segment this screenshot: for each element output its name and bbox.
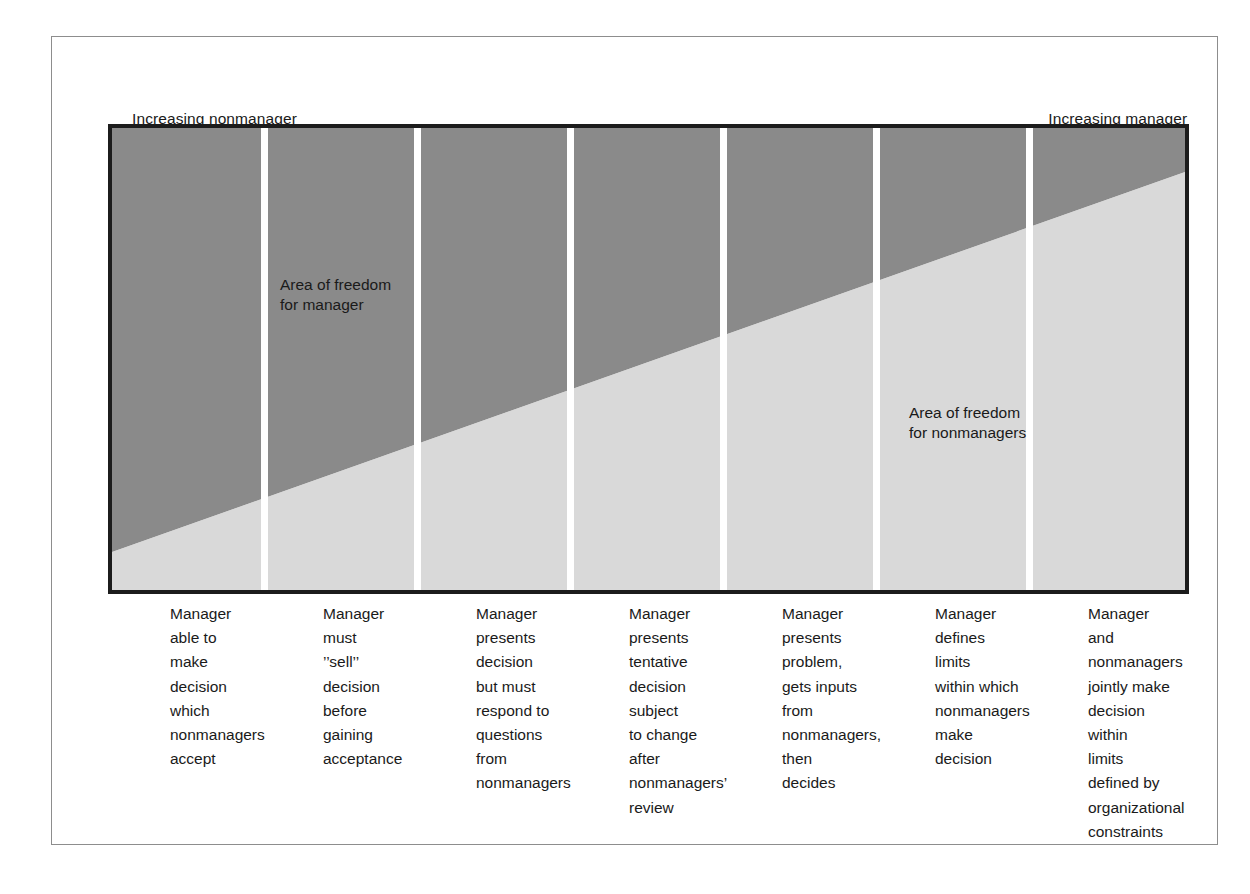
column-divider-4 (720, 128, 727, 590)
descriptor-column-6: Manager defines limits within which nonm… (935, 602, 1085, 771)
column-divider-3 (567, 128, 574, 590)
descriptor-column-3: Manager presents decision but must respo… (476, 602, 624, 796)
descriptor-column-5: Manager presents problem, gets inputs fr… (782, 602, 932, 796)
descriptor-column-2: Manager must ’’sell’’ decision before ga… (323, 602, 468, 771)
descriptor-column-4: Manager presents tentative decision subj… (629, 602, 777, 820)
area-label-nonmanager-freedom: Area of freedom for nonmanagers (909, 403, 1026, 443)
continuum-graphic: Area of freedom for manager Area of free… (108, 124, 1189, 594)
column-divider-1 (261, 128, 268, 590)
column-divider-5 (873, 128, 880, 590)
area-wedges (112, 128, 1185, 590)
area-label-manager-freedom: Area of freedom for manager (280, 275, 391, 315)
figure-frame: Increasing nonmanager power and influenc… (51, 36, 1218, 845)
descriptor-column-7: Manager and nonmanagers jointly make dec… (1088, 602, 1248, 844)
column-divider-6 (1026, 128, 1033, 590)
column-divider-2 (414, 128, 421, 590)
descriptor-columns: Manager able to make decision which nonm… (108, 602, 1218, 842)
descriptor-column-1: Manager able to make decision which nonm… (170, 602, 315, 771)
